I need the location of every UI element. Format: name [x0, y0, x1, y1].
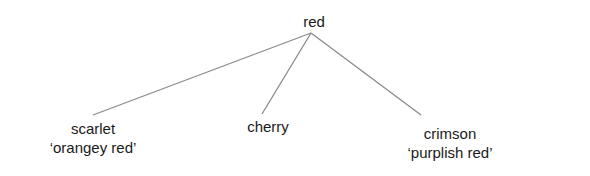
edge-red-cherry: [262, 33, 311, 114]
edge-red-crimson: [311, 33, 421, 115]
child-node-scarlet: scarlet ‘orangey red’: [50, 119, 137, 157]
child-label-cherry: cherry: [247, 118, 289, 135]
child-node-crimson: crimson ‘purplish red’: [407, 124, 492, 162]
root-label: red: [303, 13, 325, 30]
child-label-scarlet: scarlet: [71, 120, 115, 137]
child-node-cherry: cherry: [247, 117, 289, 136]
root-node-red: red: [303, 12, 325, 31]
edge-red-scarlet: [93, 33, 311, 115]
child-gloss-scarlet: ‘orangey red’: [50, 138, 137, 157]
child-gloss-crimson: ‘purplish red’: [407, 143, 492, 162]
hyponymy-tree-diagram: red scarlet ‘orangey red’ cherry crimson…: [0, 0, 590, 176]
child-label-crimson: crimson: [424, 125, 477, 142]
